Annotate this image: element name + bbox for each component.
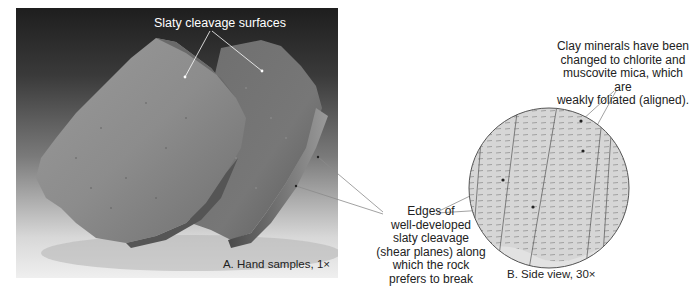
callout-line: weakly foliated (aligned).	[555, 94, 691, 108]
callout-line: changed to chlorite and	[555, 54, 691, 68]
clay-minerals-callout: Clay minerals have been changed to chlor…	[555, 40, 691, 108]
callout-line: prefers to break	[372, 273, 490, 287]
callout-line: Clay minerals have been	[555, 40, 691, 54]
callout-line: muscovite mica, which are	[555, 67, 691, 94]
callout-line: (shear planes) along	[372, 246, 490, 260]
callout-line: which the rock	[372, 259, 490, 273]
callout-line: well-developed	[372, 219, 490, 233]
cleavage-edges-callout: Edges of well-developed slaty cleavage (…	[372, 205, 490, 286]
callout-line: Edges of	[372, 205, 490, 219]
callout-line: slaty cleavage	[372, 232, 490, 246]
panel-b-caption: B. Side view, 30×	[507, 268, 596, 280]
